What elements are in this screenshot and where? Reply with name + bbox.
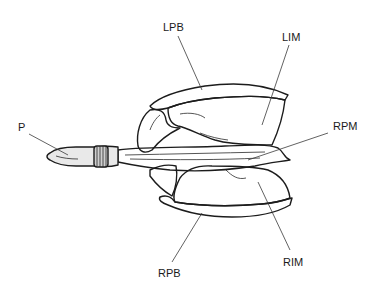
- leader-line-rim: [258, 182, 290, 250]
- leader-line-rpb: [172, 213, 202, 262]
- label-p: P: [18, 121, 25, 133]
- right-pelvic-bone: [159, 196, 292, 217]
- leader-line-lpb: [178, 36, 202, 90]
- leader-line-rpm: [248, 133, 328, 160]
- label-rim: RIM: [283, 256, 303, 268]
- label-lim: LIM: [282, 31, 300, 43]
- anatomical-figure: LPB LIM P RPM RIM RPB: [0, 0, 379, 295]
- label-rpm: RPM: [333, 120, 357, 132]
- leader-line-p: [29, 134, 68, 155]
- leader-line-lim: [262, 45, 289, 125]
- label-lpb: LPB: [163, 21, 184, 33]
- label-rpb: RPB: [158, 267, 181, 279]
- right-penile-muscle: [118, 145, 290, 171]
